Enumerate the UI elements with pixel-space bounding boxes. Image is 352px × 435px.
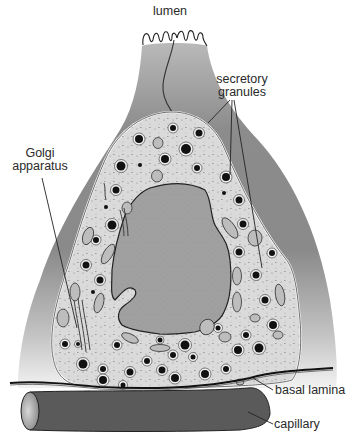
label-secretory-granules-line2: granules xyxy=(213,86,271,99)
label-secretory-granules: secretory granules xyxy=(213,73,271,99)
capillary xyxy=(30,388,270,432)
label-golgi-line2: apparatus xyxy=(12,160,68,173)
label-basal-lamina: basal lamina xyxy=(275,384,345,397)
capillary-opening xyxy=(21,392,39,430)
secretory-cell-diagram xyxy=(0,0,352,435)
label-capillary: capillary xyxy=(274,418,320,431)
label-lumen: lumen xyxy=(153,5,187,18)
label-golgi-apparatus: Golgi apparatus xyxy=(12,147,68,173)
